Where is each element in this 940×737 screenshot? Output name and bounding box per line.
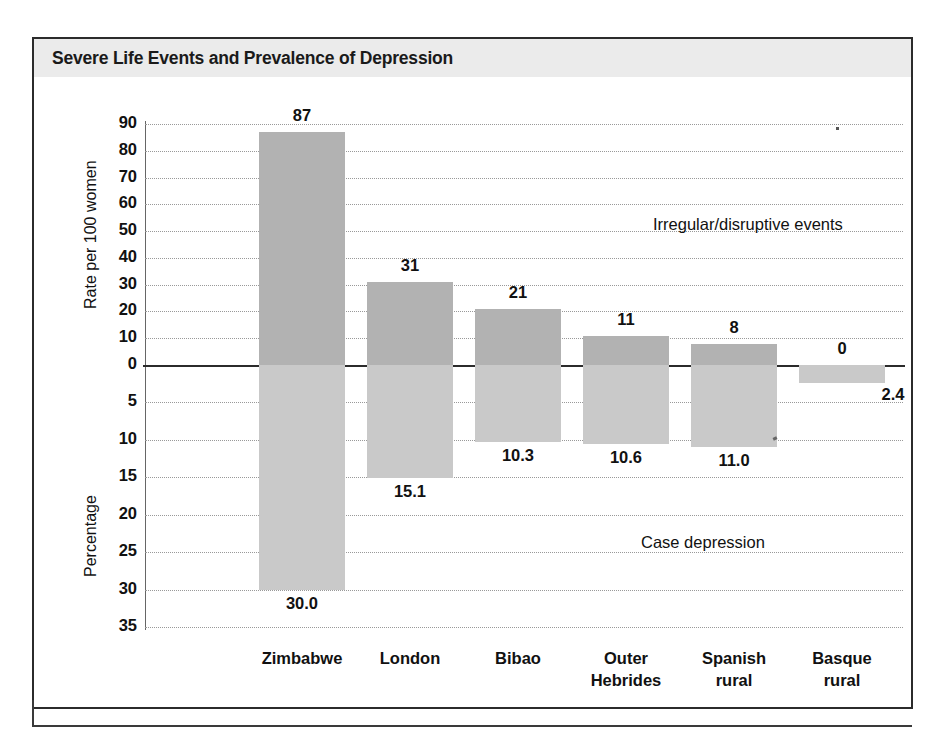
y-axis-line [145, 121, 146, 630]
bar-lower-basque-rural [799, 365, 885, 383]
x-axis-label-bibao: Bibao [458, 647, 578, 669]
y-tick-label-upper: 50 [97, 220, 137, 239]
plot-area: 908070605040302010051015202530358730.0Zi… [34, 39, 911, 707]
y-tick-label-upper: 80 [97, 140, 137, 159]
annotation-irregular-disruptive-events: Irregular/disruptive events [653, 215, 843, 234]
x-axis-label-zimbabwe: Zimbabwe [242, 647, 362, 669]
bar-lower-bibao [475, 365, 561, 442]
bar-lower-spanish-rural [691, 365, 777, 447]
y-axis-title-upper: Rate per 100 women [82, 160, 100, 309]
value-label-lower-zimbabwe: 30.0 [257, 594, 347, 613]
bar-upper-bibao [475, 309, 561, 365]
value-label-lower-basque-rural: 2.4 [848, 385, 938, 404]
bar-lower-zimbabwe [259, 365, 345, 590]
annotation-case-depression: Case depression [641, 533, 765, 552]
value-label-upper-outer-hebrides: 11 [581, 310, 671, 329]
value-label-upper-zimbabwe: 87 [257, 106, 347, 125]
value-label-lower-outer-hebrides: 10.6 [581, 448, 671, 467]
y-tick-label-lower: 20 [97, 504, 137, 523]
value-label-upper-basque-rural: 0 [797, 339, 887, 358]
gridline-lower [145, 627, 903, 628]
value-label-upper-london: 31 [365, 256, 455, 275]
bar-upper-zimbabwe [259, 132, 345, 365]
gridline-lower [145, 590, 903, 591]
y-tick-label-upper: 0 [97, 354, 137, 373]
y-tick-label-upper: 70 [97, 167, 137, 186]
bar-upper-outer-hebrides [583, 336, 669, 365]
y-tick-label-lower: 5 [97, 391, 137, 410]
y-tick-label-lower: 15 [97, 466, 137, 485]
page-left-rule [32, 700, 34, 727]
x-axis-label-basque-rural: Basquerural [782, 647, 902, 691]
y-tick-label-upper: 90 [97, 113, 137, 132]
x-axis-label-outer-hebrides: OuterHebrides [566, 647, 686, 691]
y-tick-label-lower: 25 [97, 541, 137, 560]
x-axis-label-london: London [350, 647, 470, 669]
bar-lower-london [367, 365, 453, 478]
x-axis-label-spanish-rural: Spanishrural [674, 647, 794, 691]
y-tick-label-upper: 60 [97, 193, 137, 212]
value-label-lower-bibao: 10.3 [473, 446, 563, 465]
bar-upper-london [367, 282, 453, 365]
y-tick-label-upper: 20 [97, 300, 137, 319]
y-tick-label-lower: 30 [97, 579, 137, 598]
page-bottom-rule [32, 725, 912, 727]
value-label-upper-spanish-rural: 8 [689, 318, 779, 337]
value-label-lower-london: 15.1 [365, 482, 455, 501]
bar-lower-outer-hebrides [583, 365, 669, 444]
y-tick-label-upper: 40 [97, 247, 137, 266]
scan-speck-icon [836, 127, 839, 130]
y-tick-label-lower: 10 [97, 429, 137, 448]
figure-frame: Severe Life Events and Prevalence of Dep… [32, 37, 913, 709]
y-tick-label-lower: 35 [97, 616, 137, 635]
value-label-upper-bibao: 21 [473, 283, 563, 302]
y-axis-title-lower: Percentage [82, 495, 100, 577]
y-tick-label-upper: 10 [97, 327, 137, 346]
y-tick-label-upper: 30 [97, 274, 137, 293]
value-label-lower-spanish-rural: 11.0 [689, 451, 779, 470]
bar-upper-spanish-rural [691, 344, 777, 365]
